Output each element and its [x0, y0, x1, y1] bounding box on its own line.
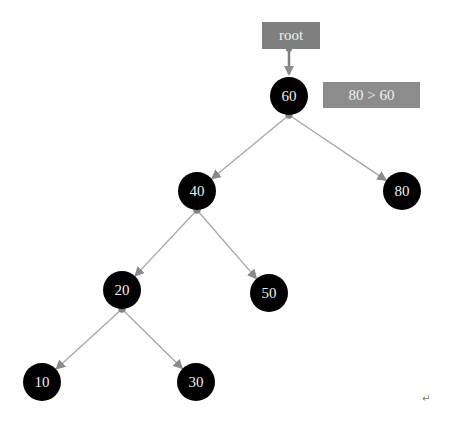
return-mark-icon: ↵ [422, 393, 430, 404]
root-label: root [262, 22, 320, 49]
edge-n60-n80 [289, 115, 385, 180]
node-10: 10 [23, 363, 61, 401]
tree-edges [0, 0, 450, 428]
node-60: 60 [270, 77, 308, 115]
comparison-label: 80 > 60 [323, 82, 420, 108]
node-30: 30 [177, 363, 215, 401]
edge-n20-n30 [122, 309, 182, 368]
edge-n20-n10 [57, 309, 122, 369]
edge-n40-n50 [197, 210, 256, 278]
edge-n60-n40 [212, 115, 289, 178]
edge-n40-n20 [136, 210, 197, 275]
node-40: 40 [178, 172, 216, 210]
node-50: 50 [250, 274, 288, 312]
node-20: 20 [103, 271, 141, 309]
node-80: 80 [383, 172, 421, 210]
